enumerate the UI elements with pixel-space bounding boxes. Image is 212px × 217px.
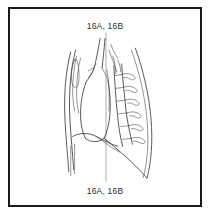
sternum-outline [73, 56, 77, 111]
posterior-chest-wall-inner [131, 50, 147, 177]
rib-process-1 [122, 74, 136, 80]
cardiac-anterior-border [81, 82, 87, 139]
descending-aorta [107, 70, 109, 111]
vertebral-posterior-line [122, 64, 133, 144]
diaphragm-crus [96, 136, 120, 152]
rib-process-4 [128, 112, 142, 118]
cardiac-posterior-border [104, 80, 110, 139]
right-hemidiaphragm [104, 138, 147, 178]
vertebra-separator-3 [117, 100, 126, 101]
pulmonary-vessel-branch-b [118, 60, 121, 72]
rib-process-2 [124, 86, 138, 92]
figure-label-bottom: 16A, 16B [10, 186, 200, 196]
figure-root: 16A, 16B [0, 0, 212, 217]
pulmonary-vessel-branch-c [111, 44, 118, 58]
vertebra-separator-6 [123, 138, 132, 139]
rib-process-5 [129, 125, 143, 131]
rib-process-3 [126, 99, 140, 105]
figure-border-frame: 16A, 16B [8, 7, 202, 207]
vertebral-anterior-line [114, 66, 123, 146]
anatomy-illustration [10, 9, 200, 205]
rib-process-6 [131, 137, 145, 143]
right-main-bronchus [102, 68, 108, 79]
trachea-posterior-wall [102, 38, 105, 67]
vertebra-separator-2 [116, 87, 124, 88]
vertebra-separator-1 [115, 75, 122, 76]
trachea-anterior-wall [86, 38, 100, 81]
